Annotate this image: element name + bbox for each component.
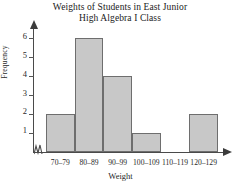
x-axis-line (33, 152, 223, 153)
y-axis-tick: 3 (29, 95, 34, 96)
x-axis-arrow-icon (223, 148, 232, 156)
plot-area: 123456 (33, 28, 223, 153)
y-axis-tick: 2 (29, 114, 34, 115)
x-axis-title: Weight (33, 171, 208, 181)
y-axis-tick-label: 4 (23, 70, 27, 79)
bar-series (46, 29, 218, 152)
y-axis-tick: 4 (29, 76, 34, 77)
y-axis-tick-label: 1 (23, 126, 27, 135)
x-axis-tick-labels: 70–7980–8990–99100–109110–119120–129 (33, 158, 228, 170)
y-axis-line (33, 28, 34, 153)
bar[interactable] (75, 38, 104, 152)
bar[interactable] (103, 76, 132, 152)
y-axis-tick: 1 (29, 133, 34, 134)
bar[interactable] (189, 114, 218, 152)
bar[interactable] (46, 114, 75, 152)
y-axis-title: Frequency (0, 45, 9, 78)
y-axis-tick-label: 2 (23, 107, 27, 116)
x-axis-tick-label: 120–129 (183, 158, 224, 167)
y-axis-tick: 5 (29, 57, 34, 58)
chart-title-line-1: Weights of Students in East Junior (0, 2, 240, 13)
bar[interactable] (132, 133, 161, 152)
y-axis-arrow-icon (30, 20, 38, 29)
histogram-figure: Weights of Students in East Junior High … (0, 0, 240, 194)
y-axis-tick-label: 5 (23, 51, 27, 60)
y-axis-tick-label: 3 (23, 89, 27, 98)
y-axis-tick-label: 6 (23, 32, 27, 41)
y-axis-tick: 6 (29, 38, 34, 39)
